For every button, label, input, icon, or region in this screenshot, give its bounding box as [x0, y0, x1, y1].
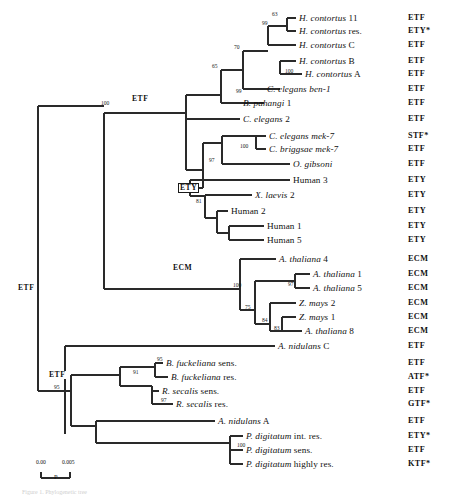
bootstrap-value: 95 — [157, 357, 163, 363]
motif-label: ETY* — [408, 27, 431, 35]
motif-label: ETF — [408, 41, 425, 49]
taxon-label: H. contortus A — [305, 70, 361, 79]
motif-label: STF* — [408, 132, 429, 140]
motif-label: ETF — [408, 417, 425, 425]
taxon-label: Human 5 — [267, 236, 302, 245]
node-motif-label: ECM — [172, 264, 193, 272]
bootstrap-value: 83 — [274, 326, 280, 332]
taxon-label: A. thaliana 1 — [313, 270, 362, 279]
taxon-label: P. digitatum int. res. — [246, 432, 322, 441]
taxon-label: Human 1 — [267, 222, 302, 231]
scale-bar-rule — [36, 471, 98, 481]
bootstrap-value: 100 — [237, 443, 245, 449]
taxon-label: O. gibsoni — [293, 160, 332, 169]
taxon-label: Human 2 — [231, 207, 266, 216]
motif-label: ATF* — [408, 373, 429, 381]
bootstrap-value: 99 — [262, 21, 268, 27]
motif-label: ETF — [408, 14, 425, 22]
bootstrap-value: 95 — [54, 385, 60, 391]
motif-label: ETF — [408, 115, 425, 123]
motif-label: KTF* — [408, 460, 431, 468]
bootstrap-value: 65 — [212, 64, 218, 70]
taxon-label: X. laevis 2 — [255, 191, 295, 200]
scale-tick-labels: 0.00 0.005 — [36, 459, 98, 467]
bootstrap-value: 63 — [272, 12, 278, 18]
taxon-label: A. thaliana 4 — [279, 255, 328, 264]
bootstrap-value: 97 — [161, 398, 167, 404]
motif-label: ETY — [408, 236, 426, 244]
taxon-label: P. digitatum highly res. — [246, 460, 334, 469]
taxon-label: H. contortus C — [299, 41, 355, 50]
motif-label: ETF — [408, 70, 425, 78]
motif-label: ETF — [408, 99, 425, 107]
scale-tick-min: 0.00 — [36, 459, 46, 465]
bootstrap-value: 81 — [196, 199, 202, 205]
taxon-label: A. nidulans C — [278, 342, 330, 351]
motif-label: GTF* — [408, 400, 431, 408]
taxon-label: B. fuckeliana sens. — [166, 359, 237, 368]
motif-label: ETY* — [408, 432, 431, 440]
motif-label: ECM — [408, 284, 428, 292]
taxon-label: C. elegans 2 — [243, 115, 290, 124]
taxon-label: B. pahangi 1 — [243, 99, 291, 108]
bootstrap-value: 84 — [262, 318, 268, 324]
figure-caption: Figure 1. Phylogenetic tree — [22, 489, 87, 496]
bootstrap-value: 91 — [133, 370, 139, 376]
node-motif-label: ETF — [131, 95, 149, 103]
bootstrap-value: 99 — [236, 89, 242, 95]
motif-label: ETY — [408, 191, 426, 199]
taxon-label: R. secalis res. — [176, 400, 228, 409]
motif-label: ETF — [408, 359, 425, 367]
motif-label: ECM — [408, 255, 428, 263]
taxon-label: A. thaliana 5 — [313, 284, 362, 293]
motif-label: ETF — [408, 85, 425, 93]
taxon-label: A. thaliana 8 — [305, 327, 354, 336]
taxon-label: Human 3 — [293, 176, 328, 185]
motif-label: ETY — [408, 222, 426, 230]
motif-label: ECM — [408, 313, 428, 321]
motif-label: ETF — [408, 446, 425, 454]
node-motif-label: ETY — [178, 183, 199, 193]
bootstrap-value: 97 — [288, 282, 294, 288]
taxon-label: H. contortus 11 — [299, 14, 358, 23]
taxon-label: C. elegans mek-7 — [269, 132, 334, 141]
taxon-label: C. elegans ben-1 — [267, 85, 331, 94]
bootstrap-value: 70 — [234, 45, 240, 51]
bootstrap-value: 97 — [209, 158, 215, 164]
motif-label: ETF — [408, 342, 425, 350]
taxon-label: Z. mays 1 — [299, 313, 335, 322]
bootstrap-value: 100 — [233, 283, 241, 289]
motif-label: ETF — [408, 160, 425, 168]
node-motif-label: ETF — [48, 371, 66, 379]
taxon-label: H. contortus B — [299, 57, 355, 66]
bootstrap-value: 100 — [240, 144, 248, 150]
taxon-label: P. digitatum sens. — [246, 446, 312, 455]
motif-label: ETY — [408, 176, 426, 184]
taxon-label: A. nidulans A — [218, 417, 270, 426]
bootstrap-value: 100 — [285, 69, 293, 75]
taxon-label: Z. mays 2 — [299, 299, 335, 308]
taxon-label: R. secalis sens. — [162, 387, 219, 396]
motif-label: ETF — [408, 57, 425, 65]
motif-label: ECM — [408, 327, 428, 335]
scale-tick-max: 0.005 — [62, 459, 75, 465]
scale-unit-label: P — [22, 474, 26, 480]
taxon-label: C. briggsae mek-7 — [269, 145, 338, 154]
motif-label: ETF — [408, 387, 425, 395]
motif-label: ECM — [408, 299, 428, 307]
motif-label: ETY — [408, 207, 426, 215]
node-motif-label: ETF — [17, 284, 35, 292]
motif-label: ETF — [408, 145, 425, 153]
taxon-label: B. fuckeliana res. — [171, 373, 237, 382]
bootstrap-value: 75 — [245, 305, 251, 311]
bootstrap-value: 100 — [101, 101, 109, 107]
taxon-label: H. contortus res. — [299, 27, 362, 36]
scale-bar: 0.00 0.005 — [36, 459, 98, 485]
phylogenetic-tree-figure: H. contortus 11 H. contortus res. H. con… — [0, 0, 459, 497]
motif-label: ECM — [408, 270, 428, 278]
